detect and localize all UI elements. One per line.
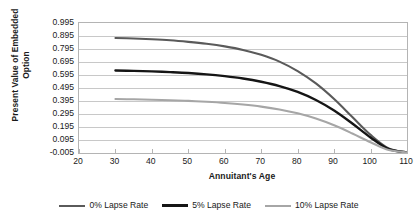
legend-label: 5% Lapse Rate	[192, 200, 251, 211]
chart-plot-svg	[79, 23, 407, 153]
y-axis-tick-label: 0.995	[30, 17, 74, 27]
legend-label: 0% Lapse Rate	[89, 200, 148, 211]
x-axis-tick-label: 60	[204, 156, 244, 167]
x-axis-tick-label: 100	[350, 156, 390, 167]
y-axis-tick-label: 0.595	[30, 69, 74, 79]
legend-line-swatch	[59, 205, 85, 207]
y-axis-tick-label: 0.395	[30, 95, 74, 105]
y-axis-tick-label: 0.895	[30, 30, 74, 40]
gridlines	[79, 37, 407, 141]
x-axis-tick-label: 30	[94, 156, 134, 167]
chart-container: Present Value of Embedded Option -0.0050…	[0, 0, 418, 221]
series-line	[115, 38, 407, 152]
x-axis-tick-label: 50	[167, 156, 207, 167]
legend-item[interactable]: 10% Lapse Rate	[265, 200, 359, 211]
x-axis-tickmarks	[80, 149, 408, 153]
y-axis-tick-label: 0.295	[30, 108, 74, 118]
legend-label: 10% Lapse Rate	[295, 200, 359, 211]
x-axis-tick-label: 70	[240, 156, 280, 167]
legend-item[interactable]: 0% Lapse Rate	[59, 200, 148, 211]
y-axis-title-line-1: Present Value of Embedded	[10, 9, 21, 122]
y-axis-tick-label: 0.695	[30, 56, 74, 66]
x-axis-tick-label: 110	[386, 156, 418, 167]
y-axis-tick-label: 0.195	[30, 121, 74, 131]
x-axis-tick-label: 80	[277, 156, 317, 167]
plot-area	[78, 22, 408, 154]
series-lines	[115, 38, 407, 152]
legend-item[interactable]: 5% Lapse Rate	[162, 200, 251, 211]
y-axis-tick-label: 0.795	[30, 43, 74, 53]
legend-line-swatch	[265, 205, 291, 207]
x-axis-tick-label: 40	[131, 156, 171, 167]
x-axis-tick-label: 20	[58, 156, 98, 167]
x-axis-title: Annuitant's Age	[78, 171, 406, 181]
legend-line-swatch	[162, 204, 188, 207]
x-axis-tick-labels: 2030405060708090100110	[78, 156, 406, 170]
y-axis-tick-labels: -0.0050.0950.1950.2950.3950.4950.5950.69…	[30, 16, 74, 156]
y-axis-tick-label: 0.495	[30, 82, 74, 92]
y-axis-tick-label: 0.095	[30, 134, 74, 144]
series-line	[115, 99, 407, 152]
x-axis-tick-label: 90	[313, 156, 353, 167]
chart-legend: 0% Lapse Rate5% Lapse Rate10% Lapse Rate	[0, 200, 418, 211]
